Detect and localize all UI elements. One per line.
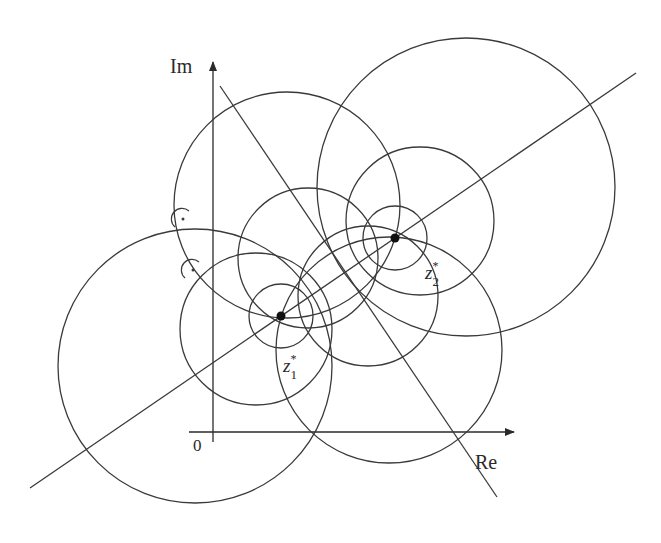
z1-sup: * bbox=[290, 352, 296, 366]
right-angle-dot bbox=[192, 269, 195, 272]
circle-through-points bbox=[298, 226, 438, 366]
perpendicular-bisector bbox=[220, 86, 497, 497]
diagram-canvas bbox=[0, 0, 661, 543]
right-angle-marks bbox=[171, 208, 199, 278]
z1-sub: 1 bbox=[290, 367, 297, 382]
line-through-points bbox=[30, 73, 636, 488]
z2-sub: 2 bbox=[432, 274, 439, 289]
point-z1-star bbox=[277, 312, 286, 321]
lines-group bbox=[30, 73, 636, 497]
circles-group bbox=[58, 38, 615, 503]
circle-through-points bbox=[276, 237, 502, 463]
right-angle-dot bbox=[182, 218, 185, 221]
real-axis-label: Re bbox=[475, 452, 497, 472]
circle-through-points bbox=[238, 188, 378, 328]
z2-sup: * bbox=[432, 259, 438, 273]
right-angle-arc bbox=[171, 208, 189, 227]
apollonian-circle-z2 bbox=[317, 38, 615, 336]
origin-label: 0 bbox=[193, 437, 202, 454]
point-label-z1: z*1 bbox=[283, 355, 303, 379]
imag-axis-label: Im bbox=[170, 56, 192, 76]
apollonian-circle-z1 bbox=[180, 253, 332, 405]
point-label-z2: z*2 bbox=[425, 262, 445, 286]
point-z2-star bbox=[391, 234, 400, 243]
